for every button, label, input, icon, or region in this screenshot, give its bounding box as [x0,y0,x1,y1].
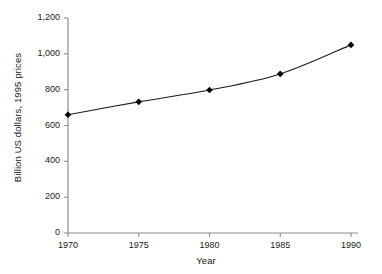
y-tick-label: 800 [20,84,60,94]
data-point-marker [206,87,213,94]
y-tick-label: 400 [20,155,60,165]
data-point-marker [65,111,72,118]
x-tick-label: 1985 [260,240,300,250]
x-tick-label: 1990 [331,240,371,250]
axes [68,18,358,233]
y-tick-label: 600 [20,120,60,130]
x-tick-label: 1975 [119,240,159,250]
y-tick-label: 1,000 [20,48,60,58]
data-line-series [68,45,351,115]
data-point-marker [348,42,355,49]
y-tick-label: 1,200 [20,12,60,22]
chart-container: Billion US dollars, 1995 prices Year 020… [0,0,382,274]
y-tick-label: 200 [20,191,60,201]
x-tick-label: 1980 [190,240,230,250]
x-axis-ticks [68,233,351,237]
data-point-marker [277,71,284,78]
data-markers [65,42,355,118]
data-point-marker [135,99,142,106]
x-tick-label: 1970 [48,240,88,250]
y-tick-label: 0 [20,227,60,237]
